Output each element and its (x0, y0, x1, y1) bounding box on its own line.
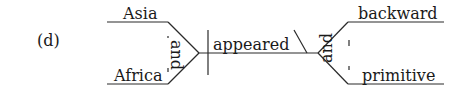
item-label: (d) (37, 31, 60, 50)
subject-word-2: Africa (113, 66, 163, 85)
sentence-diagram: (d) Asia Africa and appeared backward pr… (0, 0, 464, 92)
verb-word: appeared (213, 35, 289, 54)
complement-word-1: backward (358, 4, 438, 23)
complement-word-2: primitive (362, 66, 435, 85)
subject-word-1: Asia (122, 4, 158, 23)
complement-conjunction: and (317, 33, 336, 63)
complement-slash (294, 30, 307, 53)
subject-conjunction: and (167, 40, 186, 70)
